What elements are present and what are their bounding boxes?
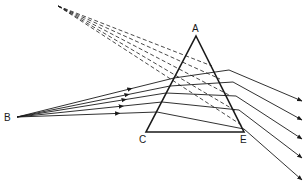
virtual-ray-dashed-line (58, 6, 220, 79)
refracted-ray-inside (157, 112, 244, 129)
incident-ray (17, 78, 174, 117)
incident-ray (17, 93, 166, 117)
refracted-ray-inside (170, 82, 233, 86)
light-rays (17, 70, 302, 180)
diagram-canvas: A B C E (0, 0, 308, 186)
emergent-ray-arrow (239, 110, 302, 158)
virtual-ray-dashed-line (58, 6, 212, 66)
virtual-rays-dashed (58, 6, 243, 126)
label-vertex-a: A (192, 23, 199, 34)
prism-refraction-diagram: A B C E (0, 0, 308, 186)
label-vertex-c: C (139, 134, 146, 145)
virtual-ray-dashed-line (58, 6, 243, 126)
label-vertex-e: E (240, 134, 247, 145)
emergent-ray-arrow (244, 129, 302, 180)
label-point-b: B (4, 112, 11, 123)
refracted-ray-inside (174, 70, 229, 78)
